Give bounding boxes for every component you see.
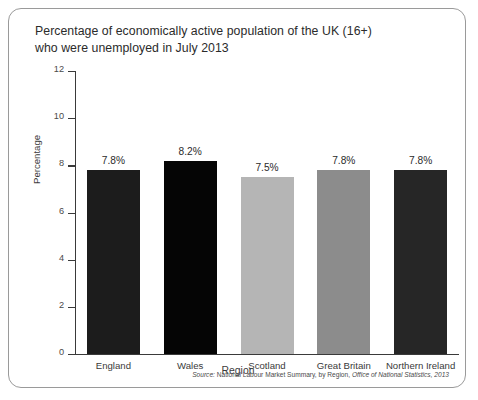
bar-value-label: 7.8% bbox=[332, 155, 355, 166]
bar-group[interactable]: 7.8%Northern Ireland bbox=[394, 71, 447, 354]
y-axis-title: Percentage bbox=[31, 135, 42, 184]
source-note: Source: National Labour Market Summary, … bbox=[192, 371, 449, 378]
y-axis-tick-label: 12 bbox=[54, 64, 64, 74]
y-axis-tick-label: 0 bbox=[59, 347, 64, 357]
chart-title: Percentage of economically active popula… bbox=[35, 23, 435, 57]
y-axis-tick-label: 8 bbox=[59, 158, 64, 168]
bar-value-label: 7.8% bbox=[102, 155, 125, 166]
y-axis-tick-mark bbox=[68, 71, 76, 72]
y-axis-tick-mark bbox=[68, 354, 76, 355]
x-axis-line bbox=[75, 354, 459, 355]
y-axis-tick-mark bbox=[68, 118, 76, 119]
y-axis-tick-mark bbox=[68, 213, 76, 214]
bar-value-label: 7.5% bbox=[255, 162, 278, 173]
y-axis-tick-label: 10 bbox=[54, 111, 64, 121]
y-axis-tick-mark bbox=[68, 260, 76, 261]
y-axis-tick-label: 6 bbox=[59, 206, 64, 216]
bar-value-label: 8.2% bbox=[179, 146, 202, 157]
plot-area: 024681012 7.8%England8.2%Wales7.5%Scotla… bbox=[75, 71, 459, 354]
source-publisher: Office of National Statistics, 2013 bbox=[352, 371, 449, 378]
y-axis-tick-label: 4 bbox=[59, 253, 64, 263]
bar[interactable] bbox=[87, 170, 140, 354]
source-label: Source: bbox=[192, 371, 215, 378]
bar-group[interactable]: 7.5%Scotland bbox=[241, 71, 294, 354]
bar-group[interactable]: 7.8%Great Britain bbox=[317, 71, 370, 354]
bar[interactable] bbox=[394, 170, 447, 354]
bar-value-label: 7.8% bbox=[409, 155, 432, 166]
bar-group[interactable]: 8.2%Wales bbox=[164, 71, 217, 354]
bar-group[interactable]: 7.8%England bbox=[87, 71, 140, 354]
source-body: National Labour Market Summary, by Regio… bbox=[215, 371, 352, 378]
y-axis-tick-label: 2 bbox=[59, 300, 64, 310]
bar[interactable] bbox=[317, 170, 370, 354]
bar[interactable] bbox=[241, 177, 294, 354]
bar[interactable] bbox=[164, 161, 217, 354]
y-axis-tick-mark bbox=[68, 165, 76, 166]
y-axis-tick-mark bbox=[68, 307, 76, 308]
chart-card: Percentage of economically active popula… bbox=[8, 8, 466, 388]
